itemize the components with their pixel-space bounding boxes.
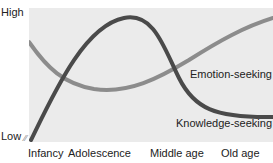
x-tick-middle-age: Middle age <box>150 147 204 159</box>
plot-area: Emotion-seeking Knowledge-seeking <box>29 8 273 142</box>
y-axis-low-label: Low <box>1 130 21 142</box>
x-tick-adolescence: Adolescence <box>68 147 131 159</box>
x-tick-infancy: Infancy <box>28 147 63 159</box>
knowledge-seeking-label: Knowledge-seeking <box>176 117 272 129</box>
y-axis-high-label: High <box>1 6 24 18</box>
emotion-seeking-label: Emotion-seeking <box>190 68 272 80</box>
x-tick-old-age: Old age <box>221 147 260 159</box>
axis-break-icon: ⁄⁄ <box>24 133 27 143</box>
